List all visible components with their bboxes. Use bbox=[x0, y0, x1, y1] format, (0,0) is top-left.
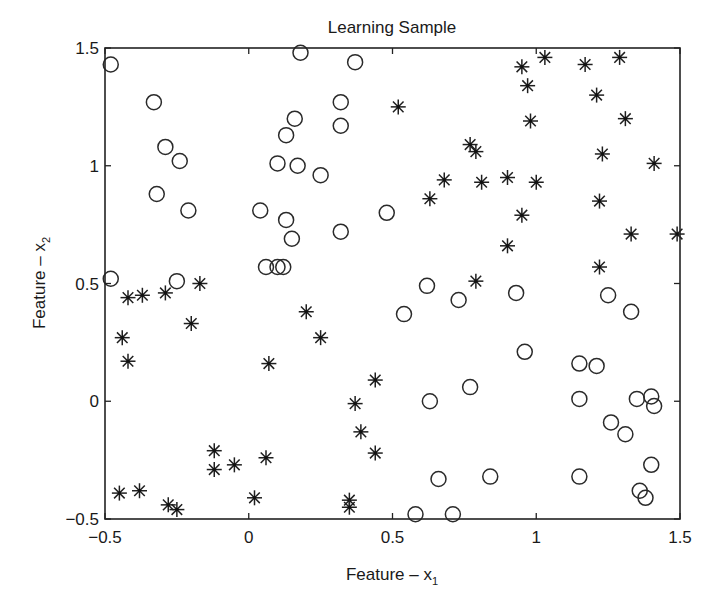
chart-title: Learning Sample bbox=[328, 18, 457, 37]
star-marker bbox=[299, 304, 314, 319]
circle-marker bbox=[483, 469, 498, 484]
star-marker bbox=[500, 170, 515, 185]
star-marker bbox=[112, 486, 127, 501]
circle-marker bbox=[181, 203, 196, 218]
circle-marker bbox=[333, 95, 348, 110]
circle-marker bbox=[158, 139, 173, 154]
circle-marker bbox=[379, 205, 394, 220]
star-marker bbox=[624, 227, 639, 242]
circle-marker bbox=[572, 356, 587, 371]
star-marker bbox=[313, 330, 328, 345]
star-marker bbox=[391, 99, 406, 114]
star-marker bbox=[592, 260, 607, 275]
star-marker bbox=[121, 290, 136, 305]
y-tick-label: 1 bbox=[90, 157, 99, 176]
circle-marker bbox=[644, 457, 659, 472]
star-marker bbox=[158, 285, 173, 300]
circle-marker bbox=[287, 111, 302, 126]
scatter-figure: Learning Sample −0.500.511.5 −0.500.511.… bbox=[0, 0, 724, 607]
star-marker bbox=[618, 111, 633, 126]
circle-marker bbox=[624, 304, 639, 319]
circle-marker bbox=[420, 278, 435, 293]
star-marker bbox=[514, 59, 529, 74]
circle-marker bbox=[169, 274, 184, 289]
star-marker bbox=[169, 502, 184, 517]
circle-marker bbox=[172, 154, 187, 169]
star-marker bbox=[422, 191, 437, 206]
y-tick-label: −0.5 bbox=[65, 510, 99, 529]
circle-marker bbox=[253, 203, 268, 218]
star-marker bbox=[523, 114, 538, 129]
data-points bbox=[103, 45, 684, 522]
y-axis-label: Feature – x2 bbox=[30, 237, 52, 329]
scatter-plot: Learning Sample −0.500.511.5 −0.500.511.… bbox=[0, 0, 724, 607]
circle-marker bbox=[422, 394, 437, 409]
circle-marker bbox=[270, 156, 285, 171]
star-marker bbox=[115, 330, 130, 345]
circle-marker bbox=[279, 212, 294, 227]
x-tick-label: 0.5 bbox=[381, 528, 405, 547]
star-marker bbox=[132, 483, 147, 498]
star-marker bbox=[670, 227, 685, 242]
circle-marker bbox=[290, 158, 305, 173]
y-tick-label: 0 bbox=[90, 392, 99, 411]
star-marker bbox=[500, 238, 515, 253]
star-marker bbox=[474, 175, 489, 190]
star-marker bbox=[468, 274, 483, 289]
star-marker bbox=[589, 88, 604, 103]
circle-marker bbox=[431, 471, 446, 486]
plot-frame bbox=[105, 48, 680, 519]
circle-marker bbox=[149, 187, 164, 202]
star-marker bbox=[578, 57, 593, 72]
star-marker bbox=[612, 50, 627, 65]
circle-marker bbox=[348, 55, 363, 70]
y-tick-label: 0.5 bbox=[75, 275, 99, 294]
circle-marker bbox=[572, 469, 587, 484]
circle-marker bbox=[604, 415, 619, 430]
circle-marker bbox=[463, 380, 478, 395]
circle-marker bbox=[618, 427, 633, 442]
star-marker bbox=[227, 457, 242, 472]
star-marker bbox=[259, 450, 274, 465]
star-marker bbox=[121, 354, 136, 369]
circle-marker bbox=[601, 288, 616, 303]
circle-marker bbox=[644, 389, 659, 404]
star-marker bbox=[247, 490, 262, 505]
star-marker bbox=[595, 146, 610, 161]
star-marker bbox=[207, 443, 222, 458]
star-marker bbox=[261, 356, 276, 371]
star-marker bbox=[647, 156, 662, 171]
star-marker bbox=[353, 424, 368, 439]
star-marker bbox=[537, 50, 552, 65]
circle-marker bbox=[517, 344, 532, 359]
x-tick-label: 1.5 bbox=[668, 528, 692, 547]
circle-marker bbox=[509, 285, 524, 300]
circle-marker bbox=[279, 128, 294, 143]
star-marker bbox=[207, 462, 222, 477]
star-marker bbox=[468, 144, 483, 159]
circle-marker bbox=[451, 292, 466, 307]
circle-marker bbox=[333, 118, 348, 133]
x-axis-label: Feature – x1 bbox=[346, 565, 438, 587]
star-marker bbox=[342, 500, 357, 515]
star-marker bbox=[135, 288, 150, 303]
circle-marker bbox=[572, 391, 587, 406]
circle-marker bbox=[647, 398, 662, 413]
circle-marker bbox=[313, 168, 328, 183]
star-marker bbox=[368, 373, 383, 388]
circle-marker bbox=[146, 95, 161, 110]
star-marker bbox=[529, 175, 544, 190]
circle-marker bbox=[589, 358, 604, 373]
x-tick-label: −0.5 bbox=[88, 528, 122, 547]
star-marker bbox=[592, 194, 607, 209]
circle-marker bbox=[397, 307, 412, 322]
star-marker bbox=[368, 446, 383, 461]
circle-marker bbox=[284, 231, 299, 246]
x-tick-label: 1 bbox=[532, 528, 541, 547]
star-marker bbox=[514, 208, 529, 223]
star-marker bbox=[437, 172, 452, 187]
star-marker bbox=[192, 276, 207, 291]
circle-marker bbox=[629, 391, 644, 406]
y-tick-label: 1.5 bbox=[75, 39, 99, 58]
x-tick-label: 0 bbox=[244, 528, 253, 547]
